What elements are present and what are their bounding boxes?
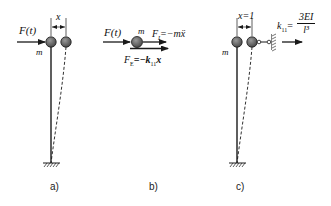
panel-c bbox=[229, 18, 302, 167]
stiffness-numerator: 3EI bbox=[297, 12, 315, 24]
caption-c: c) bbox=[236, 182, 244, 192]
force-label-b: F(t) bbox=[104, 27, 121, 38]
wall-support-icon bbox=[272, 34, 276, 51]
elastic-force-label: FE=−k11x bbox=[124, 55, 161, 67]
displacement-label-c: x=1 bbox=[238, 11, 254, 21]
fixed-support-c-icon bbox=[229, 163, 246, 167]
mass-original-a bbox=[46, 37, 56, 47]
inertia-force-label: FI=−mẍ bbox=[152, 29, 185, 41]
deflected-shape-a bbox=[51, 47, 66, 163]
caption-b: b) bbox=[149, 182, 158, 192]
hinge-1-icon bbox=[257, 40, 261, 44]
force-label-a: F(t) bbox=[19, 25, 36, 36]
fixed-support-a-icon bbox=[43, 163, 60, 167]
mass-b bbox=[132, 37, 143, 48]
mass-displaced-a bbox=[61, 37, 71, 47]
stiffness-denominator: l³ bbox=[303, 24, 309, 35]
caption-a: a) bbox=[50, 182, 59, 192]
mass-original-c bbox=[232, 37, 242, 47]
mass-displaced-c bbox=[247, 37, 257, 47]
mass-label-a: m bbox=[36, 48, 43, 57]
deflected-shape-c bbox=[237, 47, 252, 163]
displacement-label-a: x bbox=[56, 12, 60, 22]
stiffness-label: k11= bbox=[277, 21, 293, 33]
mass-label-b: m bbox=[138, 27, 145, 36]
mass-label-c: m bbox=[222, 48, 229, 57]
panel-a bbox=[17, 18, 71, 167]
stiffness-fraction: 3EI l³ bbox=[297, 12, 315, 35]
hinge-2-icon bbox=[267, 40, 271, 44]
